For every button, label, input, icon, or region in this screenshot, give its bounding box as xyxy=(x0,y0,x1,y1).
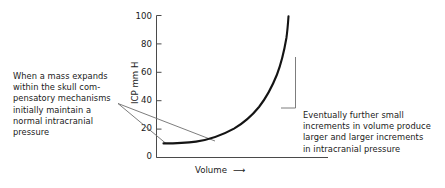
leader-line-1 xyxy=(118,104,166,144)
annotation-leader-lines xyxy=(118,104,215,144)
plot-area xyxy=(0,0,445,188)
leader-line-2 xyxy=(118,104,215,142)
chart-figure: When a mass expands within the skull com… xyxy=(0,0,445,188)
annotation-bracket xyxy=(281,57,296,108)
icp-volume-curve xyxy=(164,16,289,143)
